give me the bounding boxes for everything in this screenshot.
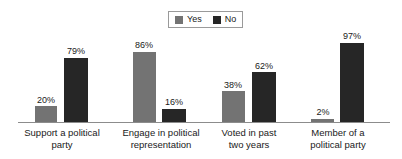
bar-value-yes-support-a-political-party: 20%: [28, 96, 64, 105]
bar-chart: Yes No 20% 79% Support a political party…: [0, 0, 402, 159]
bar-yes-engage-in-political-representation: [133, 52, 156, 122]
bar-value-yes-engage-in-political-representation: 86%: [126, 41, 162, 50]
bar-value-no-voted-in-past-two-years: 62%: [246, 62, 282, 71]
bar-value-no-member-of-a-political-party: 97%: [334, 32, 370, 41]
bar-value-no-engage-in-political-representation: 16%: [156, 98, 192, 107]
bar-no-member-of-a-political-party: [340, 43, 364, 122]
bar-yes-member-of-a-political-party: [311, 119, 334, 122]
plot-area: 20% 79% Support a political party 86% 16…: [0, 0, 402, 159]
bar-value-yes-voted-in-past-two-years: 38%: [215, 81, 251, 90]
bar-yes-support-a-political-party: [35, 106, 57, 122]
category-label-member-of-a-political-party: Member of a political party: [284, 127, 392, 151]
bar-no-voted-in-past-two-years: [252, 72, 276, 122]
x-axis-baseline: [18, 122, 390, 123]
bar-value-no-support-a-political-party: 79%: [58, 47, 94, 56]
category-label-support-a-political-party: Support a political party: [8, 127, 116, 151]
bar-no-engage-in-political-representation: [162, 109, 186, 122]
bar-no-support-a-political-party: [64, 58, 88, 122]
bar-yes-voted-in-past-two-years: [222, 91, 245, 122]
bar-value-yes-member-of-a-political-party: 2%: [305, 108, 341, 117]
